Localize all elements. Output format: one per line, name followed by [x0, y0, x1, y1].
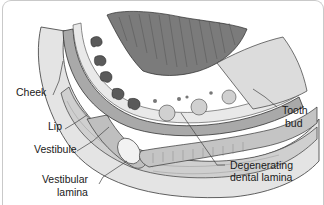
label-tooth-bud-line2: bud [285, 118, 303, 129]
label-vestibular-lamina-line1: Vestibular [40, 174, 88, 185]
label-cheek: Cheek [16, 87, 46, 98]
label-vestibular-lamina-line2: lamina [57, 187, 88, 198]
diagram-frame: Cheek Lip Vestibule Vestibular lamina To… [2, 0, 324, 205]
label-lip: Lip [48, 121, 62, 132]
label-vestibule: Vestibule [34, 144, 77, 155]
label-degenerating-line2: dental lamina [230, 172, 292, 183]
label-degenerating-line1: Degenerating [230, 160, 293, 171]
label-tooth-bud-line1: Tooth [282, 105, 308, 116]
